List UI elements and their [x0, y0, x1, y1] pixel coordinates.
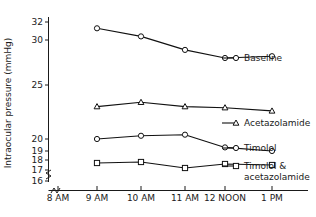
x-tick-label: 9 AM: [86, 193, 109, 203]
x-axis-ticks: 8 AM9 AM10 AM11 AM12 NOON1 PM: [47, 186, 283, 203]
legend-item-baseline: Baseline: [222, 53, 283, 63]
y-axis-title: Intraocular pressure (mmHg): [3, 38, 13, 169]
legend-marker-circle-icon: [233, 55, 238, 60]
data-point-marker: [94, 160, 99, 165]
x-tick-label: 11 AM: [171, 193, 199, 203]
y-tick-label: 20: [32, 134, 44, 144]
x-tick-label: 1 PM: [261, 193, 283, 203]
legend-marker-circle-icon: [233, 145, 238, 150]
legend-item-acetazolamide: Acetazolamide: [222, 118, 311, 128]
legend-label-line2: acetazolamide: [244, 172, 310, 182]
data-point-marker: [94, 136, 99, 141]
series-acetazolamide: [94, 99, 275, 113]
data-point-marker: [138, 159, 143, 164]
y-axis-ticks: 3230252019181716: [32, 17, 49, 186]
data-point-marker: [138, 34, 143, 39]
chart-legend: BaselineAcetazolamideTimololTimolol &ace…: [222, 53, 311, 182]
y-tick-label: 18: [32, 155, 44, 165]
legend-label: Acetazolamide: [244, 118, 311, 128]
x-tick-label: 10 AM: [127, 193, 155, 203]
y-tick-label: 17: [32, 165, 43, 175]
intraocular-pressure-line-chart: Intraocular pressure (mmHg) 323025201918…: [0, 0, 316, 217]
legend-item-timolol: Timolol: [222, 143, 277, 153]
data-point-marker: [182, 132, 187, 137]
chart-container: Intraocular pressure (mmHg) 323025201918…: [0, 0, 316, 217]
data-point-marker: [94, 26, 99, 31]
legend-label: Timolol: [243, 143, 277, 153]
x-tick-label: 8 AM: [47, 193, 70, 203]
data-point-marker: [182, 47, 187, 52]
legend-label: Timolol &: [243, 161, 286, 171]
x-tick-label: 12 NOON: [204, 193, 246, 203]
data-point-marker: [138, 133, 143, 138]
legend-marker-square-icon: [233, 163, 238, 168]
data-point-marker: [222, 145, 227, 150]
y-tick-label: 25: [32, 80, 43, 90]
legend-label: Baseline: [244, 53, 283, 63]
y-tick-label: 16: [32, 176, 44, 186]
y-tick-label: 30: [32, 35, 44, 45]
legend-item-timolol: Timolol &acetazolamide: [222, 161, 310, 182]
y-tick-label: 32: [32, 17, 43, 27]
y-axis-break-icon: [46, 170, 51, 179]
data-point-marker: [138, 99, 144, 104]
data-point-marker: [182, 165, 187, 170]
